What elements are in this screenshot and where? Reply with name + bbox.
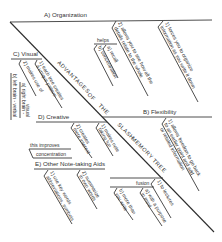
branch-fusion: fusion 1) to lectures a) with a purpose … bbox=[110, 178, 176, 226]
spine-word-memory: MEMORY bbox=[130, 135, 155, 160]
organization-item-1-text-2: information as you write it down bbox=[159, 25, 197, 90]
helps-label: helps bbox=[97, 37, 109, 43]
branch-other-aids: E) Other Note-taking Aids 1) use key wor… bbox=[34, 160, 105, 224]
creative-label: D) Creative bbox=[38, 113, 70, 120]
visual-left-brain-text: b) left brain - verbal bbox=[12, 74, 18, 117]
spine-word-tree: TREE bbox=[151, 157, 167, 173]
creative-sub-label-1: this improves bbox=[30, 142, 60, 148]
branch-visual: C) Visual 1) each tree creates a unique … bbox=[11, 50, 66, 120]
other-aids-label: E) Other Note-taking Aids bbox=[35, 160, 105, 167]
organization-line bbox=[10, 20, 212, 22]
slash-memory-tree-diagram: ADVANTAGES OF THE SLASH MEMORY TREE A) O… bbox=[0, 0, 222, 242]
flexibility-label: B) Flexibility bbox=[143, 108, 177, 115]
branch-creative: D) Creative 1) makes note taking fun 2) … bbox=[29, 113, 121, 158]
spine-word-of: OF bbox=[86, 91, 97, 102]
creative-sub-label-2: concentration bbox=[36, 151, 66, 157]
visual-label: C) Visual bbox=[13, 50, 38, 57]
fusion-label: fusion bbox=[136, 180, 150, 186]
organization-item-2-text: 2) allows you to see how all the bbox=[117, 21, 155, 85]
organization-label: A) Organization bbox=[44, 11, 88, 18]
visual-visual-text: visual bbox=[25, 104, 31, 117]
